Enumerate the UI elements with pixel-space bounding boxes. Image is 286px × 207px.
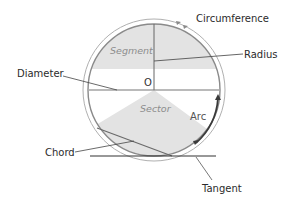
segment-label: Segment bbox=[110, 46, 153, 56]
segment-region bbox=[80, 20, 230, 69]
chord-label: Chord bbox=[45, 148, 75, 158]
circumference-label: Circumference bbox=[196, 14, 269, 24]
arc-label: Arc bbox=[190, 112, 206, 122]
sector-region bbox=[96, 90, 222, 170]
circle-diagram: Circumference Radius Diameter Chord Tang… bbox=[0, 0, 286, 207]
center-point-label: O bbox=[144, 78, 152, 88]
tangent-leader bbox=[196, 157, 212, 180]
diameter-label: Diameter bbox=[17, 69, 64, 79]
diameter-leader bbox=[63, 76, 117, 90]
tangent-label: Tangent bbox=[202, 184, 242, 194]
radius-label: Radius bbox=[244, 50, 278, 60]
sector-label: Sector bbox=[140, 104, 171, 114]
